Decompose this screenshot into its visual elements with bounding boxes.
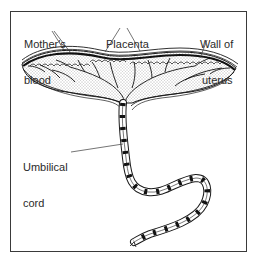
label-umbilical-cord-line1: Umbilical: [23, 161, 68, 173]
umbilical-cord: [122, 103, 207, 247]
label-mothers-blood-line2: blood: [24, 74, 66, 86]
label-placenta: Placenta: [106, 14, 149, 62]
label-mothers-blood: Mother's blood: [24, 14, 66, 98]
label-wall-of-uterus: Wall of uterus: [200, 14, 233, 98]
label-umbilical-cord-line2: cord: [23, 197, 68, 209]
label-mothers-blood-line1: Mother's: [24, 38, 66, 50]
label-placenta-text: Placenta: [106, 38, 149, 50]
label-wall-of-uterus-line1: Wall of: [200, 38, 233, 50]
label-wall-of-uterus-line2: uterus: [202, 74, 233, 86]
label-umbilical-cord: Umbilical cord: [23, 137, 68, 221]
